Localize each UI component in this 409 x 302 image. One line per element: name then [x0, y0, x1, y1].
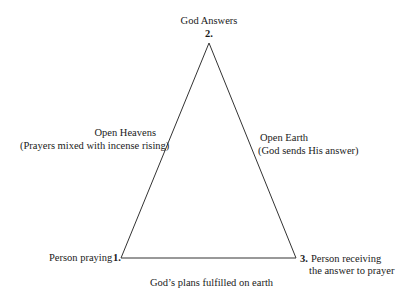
vertex-2-label: God Answers: [169, 15, 249, 27]
left-edge-subtitle: (Prayers mixed with incense rising): [20, 140, 169, 152]
right-edge-title: Open Earth: [260, 132, 308, 144]
left-edge-title: Open Heavens: [20, 127, 176, 139]
vertex-2-number: 2.: [199, 28, 219, 40]
vertex-1-label: Person praying: [49, 252, 112, 264]
vertex-3-label-line1: Person receiving: [311, 253, 381, 265]
left-edge-title-text: Open Heavens: [94, 127, 156, 138]
vertex-3-label-line2: the answer to prayer: [309, 265, 394, 277]
right-edge-subtitle: (God sends His answer): [258, 145, 359, 157]
vertex-1-number: 1.: [113, 252, 121, 264]
vertex-3-number: 3.: [300, 253, 308, 265]
bottom-edge-title: God’s plans fulfilled on earth: [150, 277, 273, 289]
